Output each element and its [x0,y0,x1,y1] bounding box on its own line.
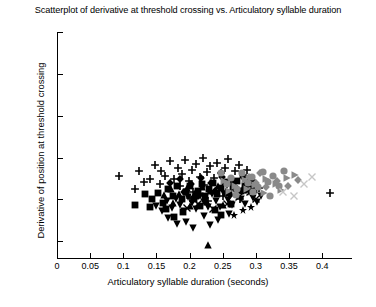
data-point-square [217,183,226,192]
data-point-triangle-down [224,195,233,204]
data-point-triangle-up [198,182,207,191]
data-point-triangle-down [212,196,221,205]
data-point-x [299,179,308,188]
data-point-plus [176,182,185,191]
data-point-plus [228,175,237,184]
x-tick-label: 0.4 [302,261,342,271]
data-point-diamond [176,174,185,183]
data-point-triangle-down [196,191,205,200]
data-point-triangle-down [180,206,189,215]
data-point-circle [222,180,231,189]
data-point-diamond [165,179,174,188]
data-point-triangle-down [204,203,213,212]
data-point-triangle-right [272,179,281,188]
data-point-circle [275,182,284,191]
data-point-plus [180,156,189,165]
data-point-square [233,177,242,186]
data-point-square [229,182,238,191]
data-point-star [247,202,256,211]
data-point-plus [239,171,248,180]
data-point-triangle-up [182,184,191,193]
data-point-circle [233,184,242,193]
data-point-plus [165,157,174,166]
data-point-plus [155,180,164,189]
data-point-circle [266,192,275,201]
data-point-diamond [255,169,264,178]
data-point-triangle-right [251,180,260,189]
data-point-triangle-up [230,181,239,190]
data-point-square [185,181,194,190]
data-point-square [210,206,219,215]
data-point-plus [254,183,263,192]
data-point-diamond [283,181,292,190]
data-point-triangle-right [290,171,299,180]
data-point-plus [206,162,215,171]
data-point-triangle-down [188,199,197,208]
data-point-square [131,201,140,210]
data-point-plus [169,175,178,184]
data-point-triangle-down [176,200,185,209]
data-point-plus [326,189,335,198]
data-point-plus [130,184,139,193]
data-point-plus [204,196,213,205]
data-point-triangle-right [220,176,229,185]
data-point-plus [202,167,211,176]
data-point-square [195,201,204,210]
data-point-x [182,204,191,213]
data-point-triangle-right [241,175,250,184]
data-point-triangle-down [208,190,217,199]
data-point-star [230,210,239,219]
data-point-triangle-right [242,185,251,194]
data-point-x [194,199,203,208]
data-point-x [251,195,260,204]
data-point-diamond [245,173,254,182]
data-point-plus [188,187,197,196]
data-point-square [148,195,157,204]
data-point-triangle-down [172,194,181,203]
data-point-x [209,205,218,214]
data-point-diamond [194,192,203,201]
data-point-circle [269,172,278,181]
data-point-plus [220,164,229,173]
data-point-square [189,194,198,203]
data-point-plus [222,179,231,188]
data-point-triangle-down [206,221,215,230]
data-point-square [241,181,250,190]
data-point-plus [216,169,225,178]
data-point-triangle-up [214,182,223,191]
data-point-circle [237,168,246,177]
data-point-x [234,193,243,202]
data-point-triangle-up [159,191,168,200]
data-point-square [178,208,187,217]
data-point-square [145,202,154,211]
data-point-circle [247,173,256,182]
data-point-plus [235,195,244,204]
data-point-triangle-down [192,204,201,213]
data-point-triangle-down [228,201,237,210]
scatterplot-figure: Scatterplot of derivative at threshold c… [0,0,376,307]
data-point-diamond [207,178,216,187]
data-point-diamond [249,176,258,185]
data-point-plus [235,161,244,170]
data-point-square [164,185,173,194]
data-point-plus [188,165,197,174]
data-point-square [141,190,150,199]
data-point-triangle-up [245,180,254,189]
data-point-x [223,200,232,209]
data-point-diamond [218,173,227,182]
data-point-diamond [238,172,247,181]
data-point-square [172,182,181,191]
data-point-triangle-right [283,174,292,183]
data-point-triangle-down [224,210,233,219]
data-point-x [279,187,288,196]
data-point-triangle-down [216,202,225,211]
data-point-square [169,192,178,201]
data-point-triangle-right [225,187,234,196]
data-point-diamond [186,179,195,188]
data-point-plus [161,172,170,181]
data-point-circle [216,169,225,178]
data-point-plus [213,158,222,167]
data-point-square [205,184,214,193]
data-point-circle [264,178,273,187]
data-point-triangle-down [163,197,172,206]
